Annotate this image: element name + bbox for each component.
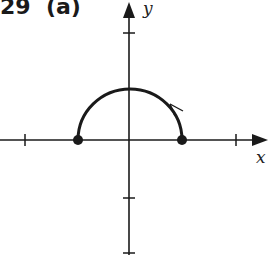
y-axis-arrow-icon [123, 2, 135, 18]
x-axis [0, 134, 268, 146]
x-axis-label: x [256, 147, 266, 167]
y-axis [123, 2, 135, 255]
right-endpoint-dot [177, 135, 187, 145]
x-axis-arrow-icon [252, 134, 268, 146]
left-endpoint-dot [73, 135, 83, 145]
y-axis-label: y [142, 0, 153, 18]
semicircle-curve [78, 89, 182, 140]
graph: x y [0, 0, 276, 255]
